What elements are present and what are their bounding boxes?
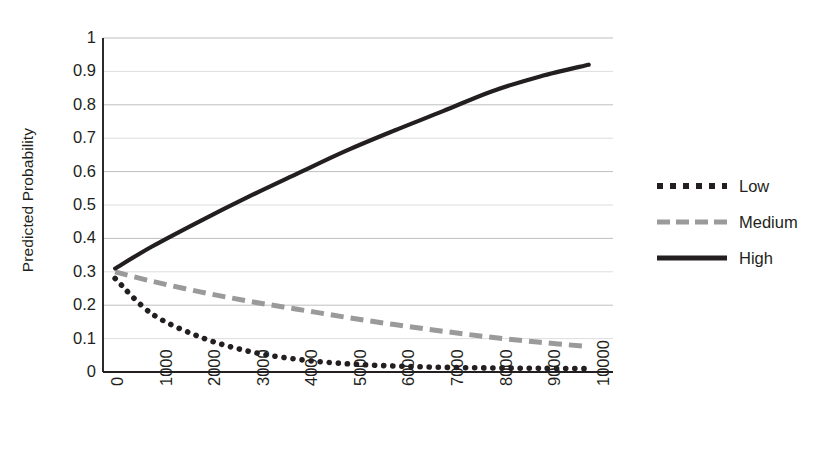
legend-key-low-icon — [655, 179, 729, 193]
chart-legend: Low Medium High — [655, 168, 833, 276]
legend-key-high-icon — [655, 251, 729, 265]
legend-label-low: Low — [739, 177, 769, 196]
legend-label-high: High — [739, 249, 773, 268]
series-line-low — [115, 278, 589, 368]
legend-item-high[interactable]: High — [655, 240, 833, 276]
series-line-high — [115, 65, 589, 269]
legend-item-low[interactable]: Low — [655, 168, 833, 204]
series-line-medium — [115, 272, 589, 347]
legend-key-medium-icon — [655, 215, 729, 229]
chart-container: Predicted Probability 10.90.80.70.60.50.… — [0, 0, 833, 459]
legend-item-medium[interactable]: Medium — [655, 204, 833, 240]
legend-label-medium: Medium — [739, 213, 798, 232]
